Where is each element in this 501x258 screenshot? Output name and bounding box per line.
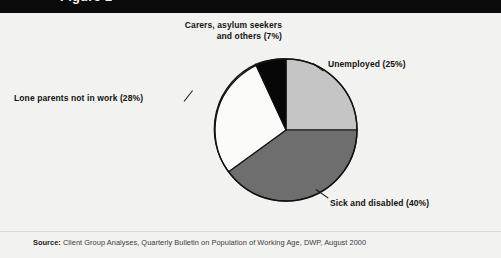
pie-label-lone-parents: Lone parents not in work (28%) [14, 93, 143, 104]
figure-panel: Figure 1 Carers, asylum seekers [0, 0, 501, 258]
pie-chart-svg [213, 57, 359, 203]
pie-label-carers-line2: and others (7%) [122, 31, 282, 42]
source-text: Client Group Analyses, Quarterly Bulleti… [61, 238, 366, 247]
pie-chart [213, 57, 359, 203]
pie-label-unemployed: Unemployed (25%) [328, 59, 406, 70]
pie-label-carers-line1: Carers, asylum seekers [122, 20, 282, 31]
chart-area: Carers, asylum seekers and others (7%) U… [0, 13, 501, 229]
pie-label-carers: Carers, asylum seekers and others (7%) [122, 20, 282, 42]
footer-divider [0, 231, 501, 232]
top-heading-band: Figure 1 [0, 0, 501, 13]
leader-line-lone-parents [184, 90, 193, 102]
source-label: Source: [33, 238, 61, 247]
pie-label-sick-and-disabled: Sick and disabled (40%) [330, 198, 429, 209]
clipped-heading-text: Figure 1 [60, 0, 112, 4]
source-note: Source: Client Group Analyses, Quarterly… [33, 238, 366, 247]
